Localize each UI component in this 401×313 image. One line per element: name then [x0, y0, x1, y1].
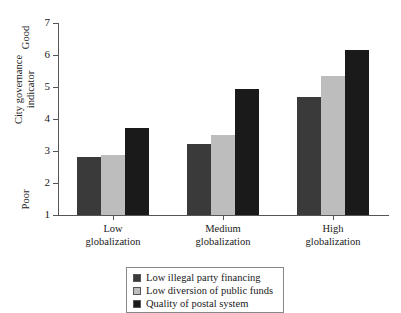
- y-tick: [53, 151, 58, 152]
- x-category-label: High globalization: [278, 223, 388, 248]
- bar: [187, 144, 211, 215]
- legend-label: Low illegal party financing: [146, 272, 261, 283]
- bar: [345, 50, 369, 215]
- y-tick: [53, 183, 58, 184]
- x-category-label: Medium globalization: [168, 223, 278, 248]
- y-tick: [53, 119, 58, 120]
- y-axis-anchor-good: Good: [20, 21, 31, 55]
- y-tick-label: 5: [36, 81, 50, 92]
- legend-item: Quality of postal system: [133, 297, 279, 310]
- chart-legend: Low illegal party financingLow diversion…: [126, 267, 284, 313]
- bar: [297, 97, 321, 215]
- x-tick: [113, 215, 114, 220]
- y-axis-anchor-poor: Poor: [20, 183, 31, 217]
- y-tick-label: 7: [36, 17, 50, 28]
- bar: [101, 155, 125, 215]
- legend-item: Low illegal party financing: [133, 271, 279, 284]
- bar: [77, 157, 101, 215]
- y-tick: [53, 215, 58, 216]
- legend-label: Low diversion of public funds: [146, 285, 273, 296]
- y-tick-label: 1: [36, 209, 50, 220]
- plot-area: 1234567: [58, 23, 388, 215]
- y-tick-label: 2: [36, 177, 50, 188]
- bar: [125, 128, 149, 215]
- legend-swatch-icon: [133, 300, 141, 308]
- y-tick-label: 3: [36, 145, 50, 156]
- legend-item: Low diversion of public funds: [133, 284, 279, 297]
- y-tick: [53, 55, 58, 56]
- legend-label: Quality of postal system: [146, 298, 248, 309]
- x-tick: [333, 215, 334, 220]
- bar-chart: City governance indicator Good Poor 1234…: [0, 0, 401, 313]
- bar: [211, 135, 235, 215]
- y-tick: [53, 23, 58, 24]
- x-tick: [223, 215, 224, 220]
- x-category-label: Low globalization: [58, 223, 168, 248]
- legend-swatch-icon: [133, 274, 141, 282]
- legend-swatch-icon: [133, 287, 141, 295]
- y-tick: [53, 87, 58, 88]
- y-tick-label: 4: [36, 113, 50, 124]
- bar: [321, 76, 345, 215]
- y-axis-line: [58, 23, 59, 216]
- y-tick-label: 6: [36, 49, 50, 60]
- bar: [235, 89, 259, 215]
